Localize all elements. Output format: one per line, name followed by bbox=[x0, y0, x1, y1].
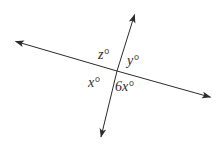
angle-label-6x: 6x° bbox=[115, 80, 134, 94]
intersecting-lines-drawing bbox=[0, 0, 223, 147]
angle-label-y: y° bbox=[127, 54, 139, 68]
angle-label-x: x° bbox=[88, 76, 100, 90]
geometry-figure: z° y° x° 6x° bbox=[0, 0, 223, 147]
angle-label-z: z° bbox=[98, 48, 109, 62]
